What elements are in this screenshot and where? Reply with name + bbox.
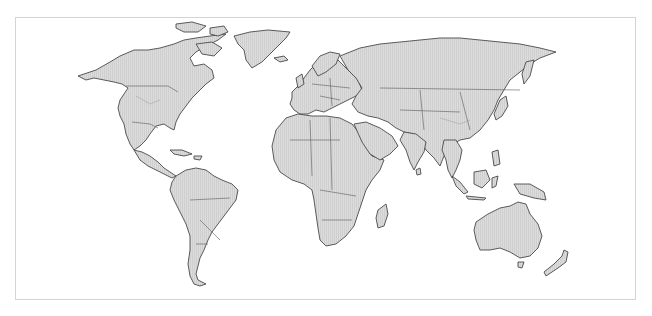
madagascar: [376, 204, 388, 228]
philippines: [492, 150, 500, 166]
baffin-island: [196, 42, 222, 56]
new-guinea: [514, 184, 546, 200]
borneo: [474, 170, 490, 188]
tasmania: [518, 262, 524, 268]
cuba: [170, 150, 192, 156]
central-america: [134, 150, 176, 178]
iceland: [274, 56, 288, 62]
arctic-islands: [176, 22, 206, 32]
south-america: [170, 168, 238, 286]
world-map: [0, 0, 652, 316]
hispaniola: [194, 156, 202, 160]
new-zealand: [544, 250, 568, 276]
sumatra: [452, 176, 468, 194]
sulawesi: [492, 176, 498, 188]
southeast-asia: [442, 140, 462, 178]
greenland: [234, 30, 290, 68]
java: [466, 196, 486, 200]
australia: [474, 202, 542, 258]
sri-lanka: [416, 168, 421, 175]
